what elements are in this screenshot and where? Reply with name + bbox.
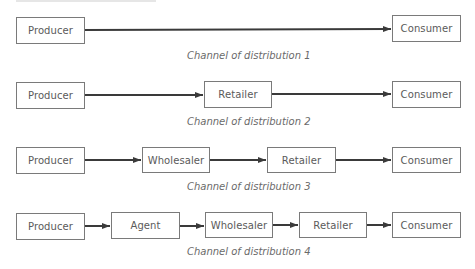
node-consumer: Consumer: [392, 147, 461, 173]
channel-caption: Channel of distribution 4: [187, 246, 311, 257]
node-retailer: Retailer: [204, 81, 272, 108]
node-agent: Agent: [111, 212, 180, 239]
node-wholesaler: Wholesaler: [142, 147, 210, 173]
node-producer: Producer: [16, 82, 85, 109]
node-producer: Producer: [16, 17, 85, 44]
node-retailer: Retailer: [267, 147, 336, 173]
node-consumer: Consumer: [392, 212, 461, 238]
channel-caption: Channel of distribution 1: [187, 50, 311, 61]
node-consumer: Consumer: [392, 81, 461, 108]
arrow-producer-to-consumer: [85, 29, 391, 30]
node-producer: Producer: [16, 147, 85, 174]
node-retailer: Retailer: [299, 212, 367, 238]
node-producer: Producer: [16, 213, 85, 240]
channel-caption: Channel of distribution 2: [187, 116, 311, 127]
node-wholesaler: Wholesaler: [205, 212, 273, 238]
channel-caption: Channel of distribution 3: [187, 181, 311, 192]
node-consumer: Consumer: [392, 15, 461, 42]
